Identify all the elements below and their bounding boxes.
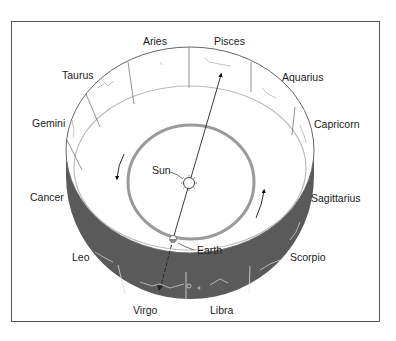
sun-icon <box>181 175 197 191</box>
label-scorpio: Scorpio <box>290 252 326 263</box>
label-cancer: Cancer <box>30 192 64 203</box>
inner-rim <box>74 86 306 250</box>
label-virgo: Virgo <box>133 305 157 316</box>
label-pisces: Pisces <box>214 36 245 47</box>
zodiac-diagram <box>0 0 396 341</box>
label-aquarius: Aquarius <box>282 72 323 83</box>
label-taurus: Taurus <box>62 70 94 81</box>
label-sagittarius: Sagittarius <box>311 193 361 204</box>
label-capricorn: Capricorn <box>314 119 360 130</box>
label-leo: Leo <box>72 252 90 263</box>
label-libra: Libra <box>210 305 233 316</box>
earth-icon <box>170 236 177 243</box>
label-aries: Aries <box>143 36 167 47</box>
label-earth: Earth <box>197 245 222 256</box>
label-gemini: Gemini <box>32 118 65 129</box>
label-sun: Sun <box>152 165 171 176</box>
